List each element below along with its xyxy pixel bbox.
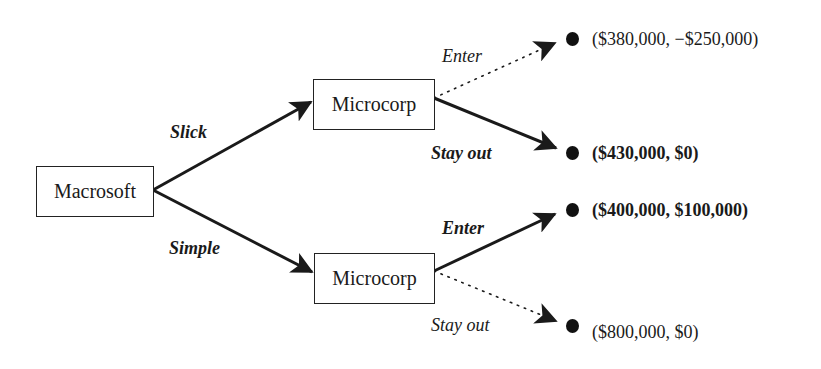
label-lower-stay-out: Stay out — [431, 315, 490, 336]
payoff-simple-stay-out: ($800,000, $0) — [592, 322, 699, 343]
node-microcorp-upper: Microcorp — [313, 79, 435, 130]
payoff-simple-enter: ($400,000, $100,000) — [592, 200, 748, 221]
edge-simple — [153, 190, 312, 272]
terminal-dot-3 — [566, 203, 579, 217]
edge-lower-stay — [434, 271, 556, 321]
label-upper-enter: Enter — [442, 46, 482, 67]
node-microcorp-lower-label: Microcorp — [332, 267, 416, 290]
node-microcorp-upper-label: Microcorp — [332, 93, 416, 116]
node-macrosoft-label: Macrosoft — [54, 180, 136, 203]
terminal-dot-2 — [566, 146, 579, 160]
payoff-slick-enter: ($380,000, −$250,000) — [592, 29, 758, 50]
node-macrosoft: Macrosoft — [36, 166, 154, 217]
terminal-dot-1 — [566, 32, 579, 46]
edge-upper-stay — [434, 98, 556, 148]
node-microcorp-lower: Microcorp — [314, 253, 435, 304]
payoff-slick-stay-out: ($430,000, $0) — [592, 143, 699, 164]
terminal-dot-4 — [566, 319, 579, 333]
label-simple: Simple — [169, 238, 220, 259]
label-upper-stay-out: Stay out — [431, 143, 492, 164]
label-slick: Slick — [170, 122, 207, 143]
edge-slick — [153, 102, 311, 190]
label-lower-enter: Enter — [442, 218, 484, 239]
